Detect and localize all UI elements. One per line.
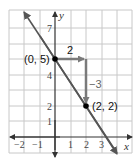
y-tick-2: 2 [47,101,52,112]
graph-line-lower [40,36,117,154]
point-0-5 [52,56,58,62]
x-tick-3: 3 [99,139,104,150]
y-tick-4: 4 [47,70,52,81]
point-label-0-5: (0, 5) [24,53,50,65]
y-tick-1: 1 [47,116,52,127]
x-tick-neg1: −1 [32,139,43,150]
coordinate-plane: y x (0, 5) (2, 2) 2 −3 −2 −1 1 2 3 1 2 4… [0,0,139,164]
point-label-2-2: (2, 2) [92,100,118,112]
x-tick-2: 2 [84,139,89,150]
x-tick-neg2: −2 [14,139,25,150]
x-axis-label: x [123,140,129,152]
point-2-2 [83,103,89,109]
y-tick-7: 7 [47,23,52,34]
rise-label: −3 [89,78,102,90]
x-tick-1: 1 [68,139,73,150]
run-label: 2 [67,44,73,56]
y-axis-label: y [58,9,64,21]
